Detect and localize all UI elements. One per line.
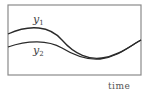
- x-axis-label: time: [108, 81, 130, 91]
- series-y2-label: y2: [33, 45, 44, 58]
- chart-frame: [8, 5, 141, 75]
- series-y1-label: y1: [33, 14, 44, 27]
- series-y2-line: [8, 40, 141, 59]
